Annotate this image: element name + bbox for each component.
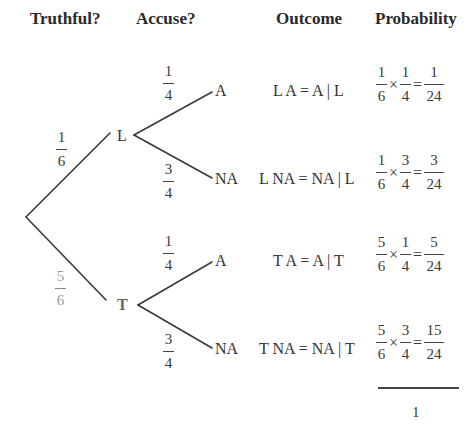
total-probability: 1 <box>412 404 420 421</box>
denominator: 24 <box>427 177 442 192</box>
fraction-bar <box>376 254 387 255</box>
branch-root-to-L <box>26 133 110 217</box>
fraction-p1: 56 <box>376 323 387 362</box>
denominator: 4 <box>165 258 173 273</box>
equals-sign: = <box>413 76 422 94</box>
sum-line <box>378 387 459 389</box>
times-sign: × <box>389 334 398 352</box>
outcome-T-A: T A = A | T <box>273 252 344 270</box>
prob-T-NA: 3 4 <box>163 332 174 371</box>
times-sign: × <box>389 246 398 264</box>
branch-root-to-T <box>26 217 106 300</box>
fraction-bar <box>400 84 411 85</box>
fraction-bar <box>376 172 387 173</box>
numerator: 1 <box>58 130 66 145</box>
numerator: 5 <box>57 269 65 284</box>
node-L: L <box>117 127 127 145</box>
fraction-bar <box>400 342 411 343</box>
header-accuse: Accuse? <box>136 9 195 29</box>
node-T: T <box>117 296 128 314</box>
denominator: 6 <box>378 89 386 104</box>
prob-L-NA: 3 4 <box>163 162 174 201</box>
header-outcome: Outcome <box>276 9 342 29</box>
header-probability: Probability <box>375 9 457 29</box>
denominator: 4 <box>402 177 410 192</box>
equals-sign: = <box>413 164 422 182</box>
denominator: 4 <box>165 88 173 103</box>
denominator: 6 <box>58 154 66 169</box>
fraction-bar <box>163 351 174 352</box>
node-T-NA: NA <box>215 340 238 358</box>
node-L-A: A <box>215 82 227 100</box>
fraction-bar <box>424 172 444 173</box>
fraction-bar <box>424 84 444 85</box>
fraction-p2: 34 <box>400 153 411 192</box>
denominator: 24 <box>427 347 442 362</box>
numerator: 1 <box>165 64 173 79</box>
numerator: 1 <box>378 65 386 80</box>
header-truthful: Truthful? <box>30 9 101 29</box>
fraction-bar <box>376 342 387 343</box>
fraction-p2: 14 <box>400 235 411 274</box>
fraction-p1: 56 <box>376 235 387 274</box>
branch-T-to-A <box>138 262 212 305</box>
fraction-result: 124 <box>424 65 444 104</box>
branch-T-to-NA <box>138 305 212 348</box>
times-sign: × <box>389 76 398 94</box>
fraction-p1: 16 <box>376 65 387 104</box>
numerator: 3 <box>165 162 173 177</box>
numerator: 3 <box>165 332 173 347</box>
numerator: 3 <box>402 323 410 338</box>
numerator: 3 <box>430 153 438 168</box>
numerator: 1 <box>430 65 438 80</box>
denominator: 24 <box>427 89 442 104</box>
probability-row-3: 56 × 14 = 524 <box>376 235 444 274</box>
node-L-NA: NA <box>215 170 238 188</box>
fraction-bar <box>55 288 66 289</box>
probability-row-4: 56 × 34 = 1524 <box>376 323 444 362</box>
denominator: 4 <box>402 347 410 362</box>
numerator: 5 <box>378 235 386 250</box>
fraction-bar <box>424 254 444 255</box>
denominator: 4 <box>402 259 410 274</box>
fraction-bar <box>163 181 174 182</box>
fraction-result: 1524 <box>424 323 444 362</box>
numerator: 1 <box>378 153 386 168</box>
denominator: 24 <box>427 259 442 274</box>
fraction-result: 324 <box>424 153 444 192</box>
probability-row-1: 16 × 14 = 124 <box>376 65 444 104</box>
probability-row-2: 16 × 34 = 324 <box>376 153 444 192</box>
fraction-p2: 14 <box>400 65 411 104</box>
fraction-p2: 34 <box>400 323 411 362</box>
denominator: 4 <box>165 186 173 201</box>
numerator: 1 <box>402 65 410 80</box>
fraction-bar <box>163 83 174 84</box>
numerator: 1 <box>402 235 410 250</box>
numerator: 3 <box>402 153 410 168</box>
denominator: 4 <box>402 89 410 104</box>
fraction-bar <box>56 149 67 150</box>
numerator: 15 <box>427 323 442 338</box>
fraction-bar <box>400 254 411 255</box>
fraction-bar <box>400 172 411 173</box>
fraction-result: 524 <box>424 235 444 274</box>
equals-sign: = <box>413 334 422 352</box>
outcome-T-NA: T NA = NA | T <box>259 340 355 358</box>
probability-tree-diagram: Truthful? Accuse? Outcome Probability 1 … <box>0 0 471 434</box>
numerator: 1 <box>165 234 173 249</box>
outcome-L-A: L A = A | L <box>273 82 344 100</box>
node-T-A: A <box>215 252 227 270</box>
prob-L-A: 1 4 <box>163 64 174 103</box>
numerator: 5 <box>378 323 386 338</box>
prob-L: 1 6 <box>56 130 67 169</box>
times-sign: × <box>389 164 398 182</box>
fraction-bar <box>424 342 444 343</box>
denominator: 6 <box>378 259 386 274</box>
fraction-p1: 16 <box>376 153 387 192</box>
fraction-bar <box>163 253 174 254</box>
denominator: 4 <box>165 356 173 371</box>
fraction-bar <box>376 84 387 85</box>
numerator: 5 <box>430 235 438 250</box>
prob-T-A: 1 4 <box>163 234 174 273</box>
prob-T: 5 6 <box>55 269 66 308</box>
